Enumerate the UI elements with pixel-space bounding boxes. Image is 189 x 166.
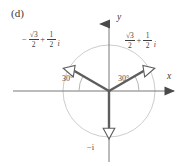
- angle-arc-left: [79, 76, 83, 91]
- root-label-left-imag-numerator: 1: [49, 31, 55, 39]
- figure-canvas: [0, 0, 189, 166]
- vector-270-arrowhead: [103, 128, 115, 139]
- root-label-left: − √3 2 + 1 2 i: [22, 31, 60, 48]
- root-label-right-real-denominator: 2: [127, 41, 133, 49]
- vector-30-arrowhead: [143, 66, 155, 77]
- root-label-down: −i: [87, 143, 94, 152]
- root-label-left-imag-denominator: 2: [49, 40, 55, 48]
- angle-label-right: 30°: [118, 75, 129, 83]
- x-axis-label: x: [167, 72, 171, 82]
- root-label-left-real-numerator: √3: [29, 31, 39, 39]
- root-label-right-real-fraction: √3 2: [125, 32, 135, 49]
- complex-plane-figure: (d) y x 30° 30° − √3 2 + 1 2 i √3: [0, 0, 189, 166]
- angle-arc-right: [135, 76, 139, 91]
- root-label-left-real-fraction: √3 2: [29, 31, 39, 48]
- y-axis-label: y: [117, 13, 121, 23]
- root-label-right-operator: +: [136, 36, 141, 45]
- root-label-right-imag-fraction: 1 2: [143, 32, 152, 49]
- root-label-right-imaginary-unit: i: [154, 41, 156, 50]
- root-label-left-imag-fraction: 1 2: [47, 31, 56, 48]
- root-label-right-imag-denominator: 2: [145, 41, 151, 49]
- root-label-right-real-numerator: √3: [125, 32, 135, 40]
- root-label-left-imaginary-unit: i: [57, 40, 59, 49]
- root-label-left-sign: −: [22, 35, 27, 44]
- angle-label-left: 30°: [62, 75, 73, 83]
- panel-letter: (d): [11, 8, 24, 19]
- root-label-right-imag-numerator: 1: [145, 32, 151, 40]
- root-label-left-real-denominator: 2: [31, 40, 37, 48]
- root-label-left-operator: +: [40, 35, 45, 44]
- root-label-right: √3 2 + 1 2 i: [125, 31, 156, 49]
